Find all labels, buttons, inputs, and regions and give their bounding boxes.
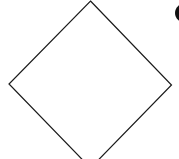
partial-glyph-cropped bbox=[175, 3, 179, 23]
decision-diamond bbox=[9, 1, 172, 159]
diagram-canvas bbox=[0, 0, 179, 159]
